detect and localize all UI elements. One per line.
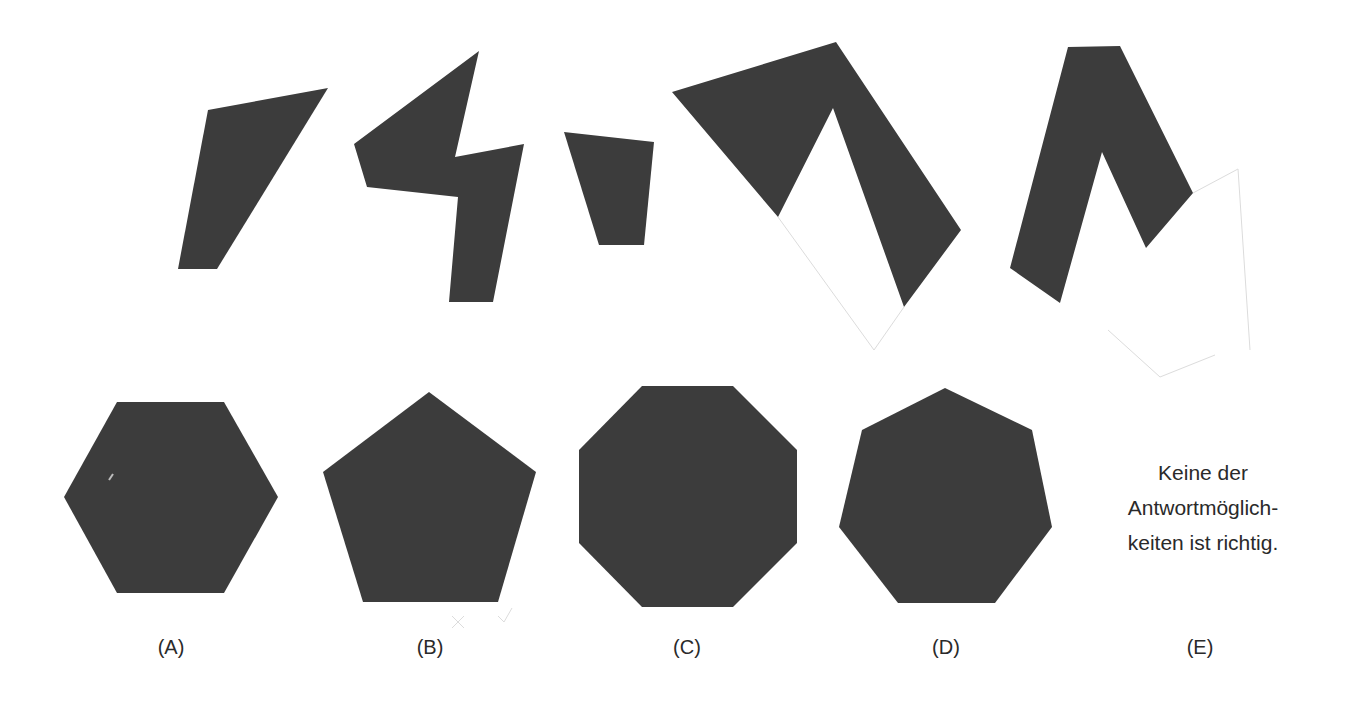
puzzle-page: Keine der Antwortmöglich- keiten ist ric…	[0, 0, 1366, 708]
option-e-text-line-2: Antwortmöglich-	[1083, 490, 1323, 525]
option-label-a[interactable]: (A)	[131, 634, 211, 660]
puzzle-figure	[0, 0, 1366, 708]
pencil-check-mark	[498, 608, 512, 622]
option-label-d[interactable]: (D)	[906, 634, 986, 660]
option-b-pentagon[interactable]	[323, 392, 536, 602]
option-e-text[interactable]: Keine der Antwortmöglich- keiten ist ric…	[1083, 455, 1323, 560]
puzzle-piece-4	[672, 42, 961, 307]
option-label-b[interactable]: (B)	[390, 634, 470, 660]
option-e-text-line-3: keiten ist richtig.	[1083, 525, 1323, 560]
puzzle-piece-1	[178, 88, 328, 269]
option-a-hexagon[interactable]	[64, 402, 278, 593]
answer-shapes	[64, 386, 1052, 607]
option-label-c[interactable]: (C)	[647, 634, 727, 660]
option-label-e[interactable]: (E)	[1160, 634, 1240, 660]
pencil-mark	[1193, 169, 1250, 350]
option-c-octagon[interactable]	[579, 386, 797, 607]
puzzle-piece-3	[564, 132, 654, 245]
pencil-mark	[1108, 330, 1215, 377]
option-e-text-line-1: Keine der	[1083, 455, 1323, 490]
option-d-heptagon[interactable]	[839, 388, 1052, 603]
puzzle-pieces	[178, 42, 1193, 307]
puzzle-piece-2	[354, 51, 524, 302]
puzzle-piece-5	[1010, 46, 1193, 303]
